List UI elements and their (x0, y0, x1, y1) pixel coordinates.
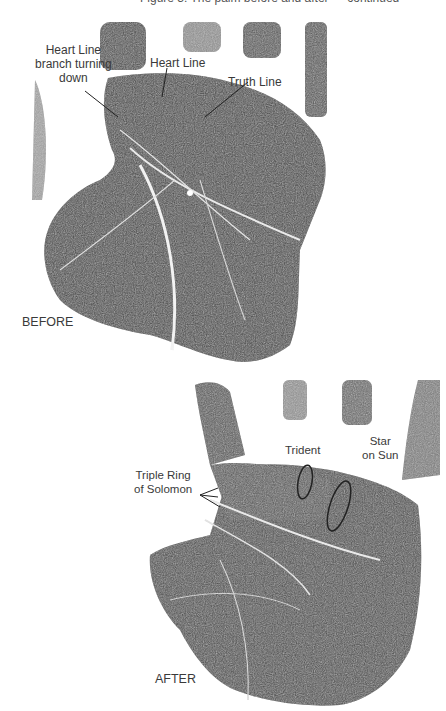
annotation-line: of Solomon (134, 482, 192, 496)
after-finger-little (402, 380, 440, 480)
after-finger-middle (283, 380, 307, 420)
after-finger-index (195, 382, 245, 465)
after-leader-lines (200, 488, 220, 507)
annotation-line: on Sun (362, 448, 398, 462)
annotation-line: Triple Ring (134, 468, 192, 482)
after-palm-figure (0, 0, 446, 711)
annotation-star-on-sun: Star on Sun (362, 434, 398, 462)
annotation-trident: Trident (285, 443, 320, 457)
annotation-line: Star (362, 434, 398, 448)
annotation-line: Trident (285, 443, 320, 457)
after-palm-print (150, 380, 440, 706)
after-tag: AFTER (155, 672, 196, 686)
annotation-triple-ring-of-solomon: Triple Ring of Solomon (134, 468, 192, 496)
after-finger-ring (342, 380, 372, 425)
